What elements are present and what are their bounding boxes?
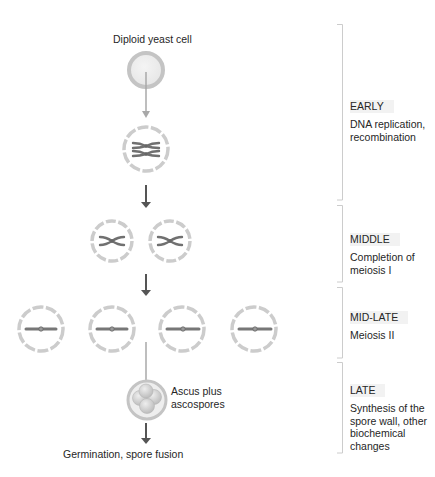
stage-bracket-late [337,363,343,454]
stage-description-line: changes [350,440,435,453]
stage-title: EARLY [350,100,394,113]
stage-description-line: meiosis I [350,264,435,277]
midlate-cell-icon [160,307,204,351]
ascus-label-line: ascospores [171,398,225,411]
stage-middle: MIDDLE Completion of meiosis I [350,229,435,276]
ascus-icon [128,381,166,419]
diploid-cell-label: Diploid yeast cell [113,33,192,46]
stage-title: MID-LATE [350,311,408,324]
midlate-cell-icon [19,307,63,351]
stage-description: Meiosis II [350,329,435,342]
stage-description: DNA replication, recombination [350,118,435,143]
stage-description-line: recombination [350,131,435,144]
stage-bracket-early [337,25,343,201]
midlate-cell-icon [90,307,134,351]
arrow-down-icon [141,423,151,444]
arrow-down-icon [141,185,151,208]
stage-title: LATE [350,384,385,397]
stage-description-line: Completion of [350,251,435,264]
stage-description-line: biochemical [350,427,435,440]
ascus-label-line: Ascus plus [171,385,225,398]
germination-label: Germination, spore fusion [63,448,183,461]
stage-description-line: Meiosis II [350,329,435,342]
stage-description: Completion of meiosis I [350,251,435,276]
stage-description: Synthesis of the spore wall, other bioch… [350,402,435,452]
stage-description-line: DNA replication, [350,118,435,131]
ascus-label: Ascus plus ascospores [171,385,225,410]
stage-description-line: spore wall, other [350,415,435,428]
stage-late: LATE Synthesis of the spore wall, other … [350,380,435,452]
midlate-cell-icon [232,307,276,351]
early-cell-icon [124,127,168,171]
stage-bracket-midlate [337,288,343,359]
stage-early: EARLY DNA replication, recombination [350,96,435,143]
stage-title: MIDDLE [350,233,400,246]
stage-midlate: MID-LATE Meiosis II [350,307,435,342]
middle-cell-icon [92,221,132,261]
middle-cell-icon [150,221,190,261]
stage-description-line: Synthesis of the [350,402,435,415]
arrow-down-icon [141,274,151,296]
stage-bracket-middle [337,206,343,283]
